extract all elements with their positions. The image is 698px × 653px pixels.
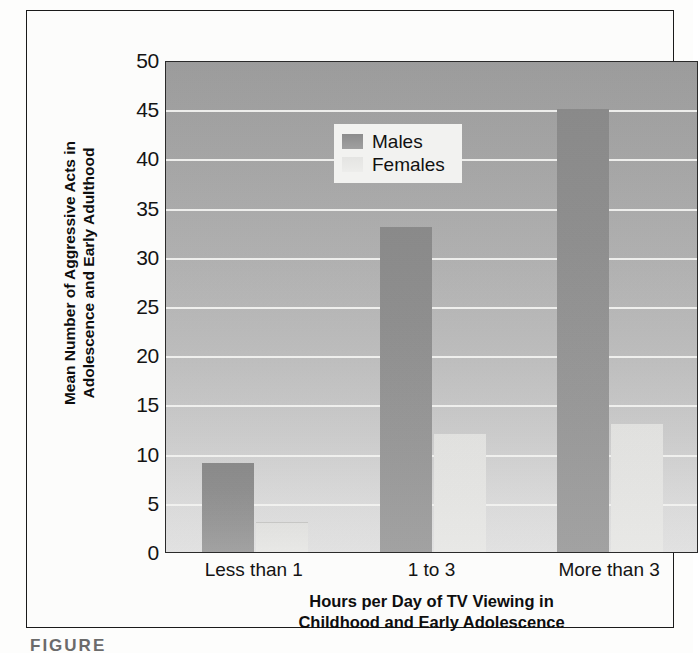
legend-item-males: Males bbox=[342, 130, 454, 153]
x-axis-title-line-1: Hours per Day of TV Viewing in bbox=[165, 591, 698, 612]
y-axis-tick-label: 25 bbox=[136, 295, 159, 319]
bar-males-2 bbox=[557, 109, 609, 552]
y-axis-tick-labels: 05101520253035404550 bbox=[123, 61, 159, 553]
y-axis-tick-label: 50 bbox=[136, 49, 159, 73]
bar-females-2 bbox=[611, 424, 663, 552]
legend-swatch-males-icon bbox=[342, 134, 363, 149]
y-axis-title-line-2: Adolescence and Early Adulthood bbox=[79, 103, 98, 443]
legend: Males Females bbox=[334, 124, 462, 183]
gridline bbox=[166, 356, 697, 358]
y-axis-tick-label: 30 bbox=[136, 246, 159, 270]
legend-item-females: Females bbox=[342, 153, 454, 176]
bar-females-1 bbox=[434, 434, 486, 552]
legend-label-males: Males bbox=[372, 132, 423, 151]
gridline bbox=[166, 405, 697, 407]
bar-females-0 bbox=[256, 522, 308, 552]
y-axis-tick-label: 10 bbox=[136, 443, 159, 467]
y-axis-title: Mean Number of Aggressive Acts in Adoles… bbox=[60, 103, 98, 443]
gridline bbox=[166, 258, 697, 260]
y-axis-tick-label: 15 bbox=[136, 393, 159, 417]
bar-males-1 bbox=[380, 227, 432, 552]
legend-label-females: Females bbox=[372, 155, 445, 174]
y-axis-tick-label: 45 bbox=[136, 98, 159, 122]
gridline bbox=[166, 307, 697, 309]
gridline bbox=[166, 209, 697, 211]
x-axis-title-line-2: Childhood and Early Adolescence bbox=[165, 612, 698, 633]
x-axis-title: Hours per Day of TV Viewing in Childhood… bbox=[165, 591, 698, 633]
legend-swatch-females-icon bbox=[342, 157, 363, 172]
gridline bbox=[166, 110, 697, 112]
figure-frame: Mean Number of Aggressive Acts in Adoles… bbox=[26, 10, 674, 628]
x-axis-tick-label: 1 to 3 bbox=[408, 559, 456, 581]
y-axis-tick-label: 5 bbox=[148, 492, 159, 516]
x-axis-tick-labels: Less than 11 to 3More than 3 bbox=[165, 559, 698, 585]
x-axis-tick-label: Less than 1 bbox=[205, 559, 303, 581]
figure-caption-fragment: FIGURE bbox=[30, 636, 630, 653]
y-axis-tick-label: 40 bbox=[136, 147, 159, 171]
y-axis-tick-label: 20 bbox=[136, 344, 159, 368]
y-axis-tick-label: 0 bbox=[148, 541, 159, 565]
y-axis-title-line-1: Mean Number of Aggressive Acts in bbox=[60, 103, 79, 443]
x-axis-tick-label: More than 3 bbox=[558, 559, 659, 581]
bar-males-0 bbox=[202, 463, 254, 552]
y-axis-tick-label: 35 bbox=[136, 197, 159, 221]
plot-area: Males Females bbox=[165, 61, 698, 553]
